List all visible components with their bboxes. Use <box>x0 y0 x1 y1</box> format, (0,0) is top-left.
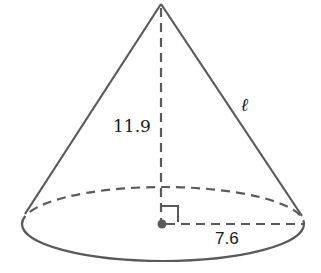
cone-figure <box>0 0 321 273</box>
right-angle-mark <box>162 206 178 222</box>
cone-left-side <box>25 4 161 214</box>
slant-height-label: ℓ <box>241 96 249 114</box>
cone-diagram: 11.9 7.6 ℓ <box>0 0 321 273</box>
base-ellipse-front <box>22 224 304 261</box>
cone-right-side-slant-height <box>161 4 302 216</box>
base-center-point <box>158 220 167 229</box>
radius-label: 7.6 <box>215 230 239 247</box>
height-label: 11.9 <box>113 118 151 135</box>
